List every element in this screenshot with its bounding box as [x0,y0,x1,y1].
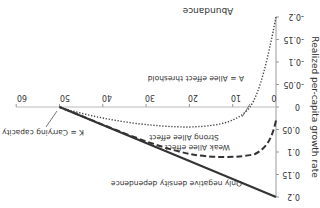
y-tick-label: 0.05 [282,125,300,134]
allee-chart: 0.2 0.15 0.1 0.05 0 -0.05 -0.1 -0.15 -0.… [0,0,320,208]
y-ticks: 0.2 0.15 0.1 0.05 0 -0.05 -0.1 -0.15 -0.… [276,12,304,201]
y-tick-label: -0.2 [288,12,304,21]
annot-K-arrow [46,111,57,127]
x-tick-label: 10 [231,93,241,102]
series-strong-allee [60,17,277,127]
label-negative-density: Only negative density dependence [111,179,242,188]
x-ticks: 0 10 20 30 40 50 60 [16,93,276,107]
y-tick-label: 0.2 [287,192,300,201]
y-tick-label: -0.1 [288,57,304,66]
annot-A: A = Allee effect threshold [148,74,244,83]
x-tick-label: 50 [60,93,70,102]
x-tick-label: 20 [188,93,198,102]
y-tick-label: -0.15 [283,35,304,44]
annot-K: K = Carrying capacity [2,128,84,137]
x-tick-label: 0 [271,93,276,102]
label-weak-allee: Weak Allee effect [165,143,230,152]
y-tick-label: -0.05 [283,80,304,89]
y-axis-label: Realized per-capita growth rate [310,36,320,178]
x-tick-label: 60 [17,93,27,102]
chart-stage: 0.2 0.15 0.1 0.05 0 -0.05 -0.1 -0.15 -0.… [0,0,320,208]
x-tick-label: 30 [145,93,155,102]
x-tick-label: 40 [102,93,112,102]
y-tick-label: 0 [295,102,300,111]
y-tick-label: 0.1 [287,147,300,156]
x-axis-label: Abundance [182,6,233,16]
label-strong-allee: Strong Allee effect [149,133,219,142]
y-tick-label: 0.15 [282,170,300,179]
annot-A-arrow [242,104,250,117]
